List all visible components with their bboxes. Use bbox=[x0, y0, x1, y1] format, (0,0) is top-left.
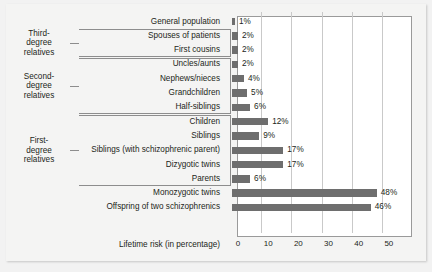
group-label-line: Second- bbox=[10, 72, 68, 82]
group-label-line: relatives bbox=[10, 48, 68, 58]
bar bbox=[232, 18, 235, 25]
group-bracket bbox=[79, 58, 231, 114]
bar-value-label: 6% bbox=[254, 172, 266, 186]
chart-panel: General population1%Spouses of patients2… bbox=[6, 4, 426, 261]
group-label-line: relatives bbox=[10, 91, 68, 101]
group-label-first: First-degreerelatives bbox=[10, 136, 68, 165]
group-bracket bbox=[79, 115, 231, 186]
bar-category-label: General population bbox=[151, 15, 220, 29]
x-tick-label: 50 bbox=[384, 239, 393, 248]
x-tick-label: 20 bbox=[294, 239, 303, 248]
x-axis-title: Lifetime risk (in percentage) bbox=[119, 239, 220, 250]
group-bracket bbox=[79, 29, 231, 57]
bar-value-label: 17% bbox=[287, 143, 303, 157]
bar bbox=[232, 189, 377, 196]
bar-value-label: 5% bbox=[251, 86, 263, 100]
bar bbox=[232, 89, 247, 96]
group-bracket-connector bbox=[70, 86, 79, 87]
bar-value-label: 2% bbox=[242, 43, 254, 57]
bar bbox=[232, 61, 238, 68]
x-axis-ticks: 01020304050 bbox=[237, 239, 412, 251]
bar-value-label: 2% bbox=[242, 29, 254, 43]
bar-category-label: Offspring of two schizophrenics bbox=[106, 200, 220, 214]
bar-value-label: 48% bbox=[381, 186, 397, 200]
bar-value-label: 9% bbox=[263, 129, 275, 143]
x-tick-label: 10 bbox=[264, 239, 273, 248]
bar-value-label: 6% bbox=[254, 100, 266, 114]
bar bbox=[232, 32, 238, 39]
group-label-line: relatives bbox=[10, 155, 68, 165]
bar bbox=[232, 161, 283, 168]
group-label-line: Third- bbox=[10, 29, 68, 39]
x-tick-label: 0 bbox=[236, 239, 240, 248]
bar bbox=[232, 175, 250, 182]
bar bbox=[232, 46, 238, 53]
bar-value-label: 2% bbox=[242, 57, 254, 71]
bar bbox=[232, 147, 283, 154]
bar-value-label: 1% bbox=[239, 15, 251, 29]
group-bracket-connector bbox=[70, 150, 79, 151]
x-tick-label: 40 bbox=[354, 239, 363, 248]
bar bbox=[232, 118, 268, 125]
bar-value-label: 46% bbox=[375, 200, 391, 214]
group-label-line: degree bbox=[10, 81, 68, 91]
group-label-line: First- bbox=[10, 136, 68, 146]
bar-row: Monozygotic twins48% bbox=[6, 186, 426, 200]
bar bbox=[232, 204, 371, 211]
bar-category-label: Monozygotic twins bbox=[153, 186, 220, 200]
group-label-second: Second-degreerelatives bbox=[10, 72, 68, 101]
chart-figure: General population1%Spouses of patients2… bbox=[0, 0, 432, 272]
group-label-third: Third-degreerelatives bbox=[10, 29, 68, 58]
bar-value-label: 17% bbox=[287, 158, 303, 172]
group-bracket-connector bbox=[70, 43, 79, 44]
bar-value-label: 4% bbox=[248, 72, 260, 86]
bar-value-label: 12% bbox=[272, 115, 288, 129]
group-label-line: degree bbox=[10, 146, 68, 156]
bar-row: Offspring of two schizophrenics46% bbox=[6, 200, 426, 214]
bar bbox=[232, 132, 259, 139]
group-label-line: degree bbox=[10, 38, 68, 48]
bar bbox=[232, 75, 244, 82]
x-tick-label: 30 bbox=[324, 239, 333, 248]
bar bbox=[232, 104, 250, 111]
bar-row: General population1% bbox=[6, 15, 426, 29]
